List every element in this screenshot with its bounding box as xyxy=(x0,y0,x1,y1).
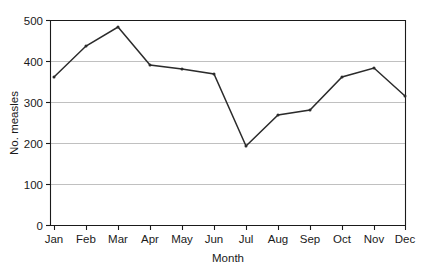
x-tickmarks xyxy=(55,226,406,230)
x-axis-title: Month xyxy=(212,252,244,264)
x-tick-label-may: May xyxy=(171,233,193,245)
x-tick-label-jul: Jul xyxy=(239,233,254,245)
series-line-measles xyxy=(54,27,405,146)
y-tick-label-100: 100 xyxy=(24,179,43,191)
x-tick-label-jun: Jun xyxy=(205,233,224,245)
x-tick-label-nov: Nov xyxy=(364,233,385,245)
y-axis-title: No. measles xyxy=(8,91,20,155)
x-tick-label-jan: Jan xyxy=(45,233,64,245)
data-point-dec xyxy=(404,95,407,98)
measles-line-chart: 500 400 300 200 100 0 Jan Feb Mar xyxy=(0,0,423,271)
data-point-jul xyxy=(245,145,248,148)
y-tickmarks xyxy=(46,21,50,226)
data-point-nov xyxy=(373,67,376,70)
data-point-feb xyxy=(85,45,88,48)
data-point-sep xyxy=(309,109,312,112)
data-point-mar xyxy=(117,26,120,29)
chart-canvas: 500 400 300 200 100 0 Jan Feb Mar xyxy=(0,0,423,271)
data-point-apr xyxy=(149,64,152,67)
x-tick-label-aug: Aug xyxy=(268,233,288,245)
data-point-aug xyxy=(277,114,280,117)
data-point-jun xyxy=(213,73,216,76)
data-point-may xyxy=(181,68,184,71)
axes-frame xyxy=(50,20,406,226)
y-tick-label-400: 400 xyxy=(24,56,43,68)
data-point-oct xyxy=(341,76,344,79)
y-tick-label-0: 0 xyxy=(37,220,43,232)
y-tick-labels: 500 400 300 200 100 0 xyxy=(24,15,43,232)
y-tick-label-500: 500 xyxy=(24,15,43,27)
x-tick-label-feb: Feb xyxy=(76,233,96,245)
x-tick-label-sep: Sep xyxy=(300,233,320,245)
data-point-jan xyxy=(53,76,56,79)
x-tick-label-dec: Dec xyxy=(395,233,416,245)
x-tick-label-apr: Apr xyxy=(141,233,159,245)
x-tick-label-mar: Mar xyxy=(108,233,128,245)
x-tick-label-oct: Oct xyxy=(333,233,352,245)
x-tick-labels: Jan Feb Mar Apr May Jun Jul Aug Sep Oct … xyxy=(45,233,416,245)
gridlines xyxy=(50,21,406,185)
y-tick-label-300: 300 xyxy=(24,97,43,109)
y-tick-label-200: 200 xyxy=(24,138,43,150)
series-markers xyxy=(53,26,407,148)
